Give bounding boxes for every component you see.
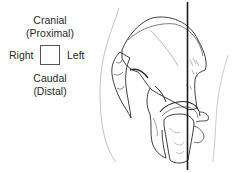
sacrum	[112, 52, 131, 118]
femur	[164, 114, 194, 163]
body-outline-right	[213, 55, 228, 162]
iliac-wing	[122, 17, 206, 110]
pelvis-illustration	[0, 0, 237, 173]
ischium	[147, 88, 166, 158]
body-outline-left	[100, 8, 119, 162]
